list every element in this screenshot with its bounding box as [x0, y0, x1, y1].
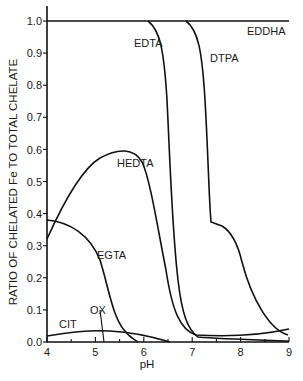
svg-text:0.5: 0.5 — [27, 176, 42, 188]
svg-text:0.3: 0.3 — [27, 240, 42, 252]
y-tick-labels: 0.0 0.1 0.2 0.3 0.4 0.5 0.6 0.7 0.8 0.9 … — [27, 15, 42, 348]
edta-label: EDTA — [134, 37, 163, 49]
cit-label: CIT — [59, 318, 77, 330]
svg-text:0.2: 0.2 — [27, 272, 42, 284]
eddha-label: EDDHA — [247, 25, 286, 37]
svg-text:0.0: 0.0 — [27, 336, 42, 348]
svg-text:0.9: 0.9 — [27, 47, 42, 59]
cit-curve — [47, 331, 170, 342]
svg-text:6: 6 — [141, 346, 147, 358]
chart: 0.0 0.1 0.2 0.3 0.4 0.5 0.6 0.7 0.8 0.9 … — [0, 0, 303, 381]
egta-label: EGTA — [97, 249, 127, 261]
svg-text:0.6: 0.6 — [27, 144, 42, 156]
svg-text:4: 4 — [44, 346, 50, 358]
svg-text:8: 8 — [238, 346, 244, 358]
svg-text:5: 5 — [92, 346, 98, 358]
hedta-curve — [47, 151, 289, 336]
dtpa-label: DTPA — [210, 52, 239, 64]
svg-text:0.7: 0.7 — [27, 111, 42, 123]
svg-text:0.1: 0.1 — [27, 304, 42, 316]
dtpa-curve — [186, 21, 288, 335]
svg-text:0.4: 0.4 — [27, 208, 42, 220]
x-tick-labels: 4 5 6 7 8 9 — [44, 346, 292, 358]
x-axis-title: pH — [140, 358, 155, 370]
hedta-label: HEDTA — [117, 157, 154, 169]
svg-text:7: 7 — [189, 346, 195, 358]
svg-text:1.0: 1.0 — [27, 15, 42, 27]
svg-text:0.8: 0.8 — [27, 79, 42, 91]
ox-label: OX — [90, 304, 107, 316]
svg-text:9: 9 — [286, 346, 292, 358]
edta-curve — [148, 21, 289, 341]
y-axis-title: RATIO OF CHELATED Fe TO TOTAL CHELATE — [7, 58, 19, 305]
